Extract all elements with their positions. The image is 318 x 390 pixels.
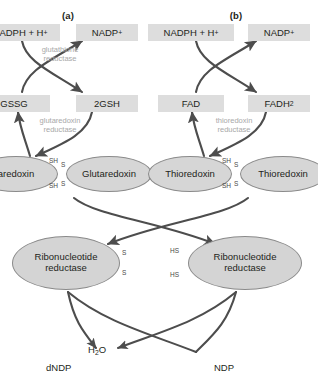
enzyme-label-thioredoxin-reductase: thioredoxin reductase	[186, 117, 282, 134]
thiol-hs-upper-rnr-right: HS	[170, 247, 179, 254]
nadp-charge-b: +	[290, 29, 294, 36]
rnr-line1-left: Ribonucleotide	[35, 251, 98, 262]
panel-label-b: (b)	[206, 10, 266, 21]
enzyme-label-glutaredoxin-reductase: glutaredoxin reductase	[12, 117, 108, 134]
label-water: H2O	[88, 344, 106, 356]
enzyme-line2: reductase	[44, 125, 77, 134]
disulfide-s-upper-a: S	[61, 161, 65, 168]
disulfide-s-lower-a: S	[61, 180, 65, 187]
thioredoxin-oxidized-label: Thioredoxin	[258, 169, 308, 180]
fad-label: FAD	[182, 98, 200, 109]
rnr-line2-right: reductase	[224, 262, 266, 273]
panel-label-a: (a)	[38, 10, 98, 21]
ellipse-thioredoxin-oxidized: Thioredoxin	[240, 156, 318, 192]
chem-box-2gsh: 2GSH	[76, 95, 138, 112]
chem-box-gssg: GSSG	[0, 95, 50, 112]
chem-box-nadp-b: NADP+	[248, 24, 310, 41]
ellipse-ribonucleotide-reductase-reduced: Ribonucleotide reductase	[188, 236, 302, 290]
thiol-hs-lower-rnr-right: HS	[170, 271, 179, 278]
ellipse-glutaredoxin-oxidized: Glutaredoxin	[66, 156, 152, 192]
enzyme-line2: reductase	[44, 54, 77, 63]
water-h: H	[88, 344, 95, 355]
nadph-label-a: NADPH + H	[0, 27, 43, 38]
chem-box-fadh2: FADH2	[248, 95, 310, 112]
thiol-sh-upper-a: SH	[49, 157, 58, 164]
fadh2-label: FADH	[264, 98, 289, 109]
label-ndp: NDP	[214, 362, 234, 373]
glutaredoxin-reduced-label: aredoxin	[0, 169, 34, 180]
gssg-label: GSSG	[0, 98, 27, 109]
fadh2-sub: 2	[290, 100, 294, 107]
thiol-sh-lower-a: SH	[49, 182, 58, 189]
ellipse-thioredoxin-reduced: Thioredoxin	[148, 156, 232, 192]
rnr-line1-right: Ribonucleotide	[214, 251, 277, 262]
enzyme-label-glutathione-reductase: glutathione reductase	[12, 46, 108, 63]
disulfide-s-lower-rnr-left: S	[122, 269, 126, 276]
nadp-label-b: NADP	[264, 27, 290, 38]
ellipse-ribonucleotide-reductase-oxidized: Ribonucleotide reductase	[12, 236, 120, 290]
disulfide-s-upper-b: S	[234, 161, 238, 168]
chem-box-nadph-a: NADPH + H+	[0, 24, 60, 41]
disulfide-s-lower-b: S	[234, 180, 238, 187]
rnr-line2-left: reductase	[45, 262, 87, 273]
thioredoxin-reduced-label: Thioredoxin	[165, 169, 215, 180]
chem-box-fad: FAD	[158, 95, 224, 112]
nadph-charge-a: +	[43, 29, 47, 36]
glutaredoxin-oxidized-label: Glutaredoxin	[82, 169, 136, 180]
nadph-label-b: NADPH + H	[164, 27, 215, 38]
nadph-charge-b: +	[214, 29, 218, 36]
nadp-label-a: NADP	[92, 27, 118, 38]
nadp-charge-a: +	[118, 29, 122, 36]
gsh-label: 2GSH	[94, 98, 120, 109]
disulfide-s-upper-rnr-left: S	[122, 249, 126, 256]
label-dndp: dNDP	[46, 362, 71, 373]
enzyme-line2: reductase	[218, 125, 251, 134]
chem-box-nadp-a: NADP+	[76, 24, 138, 41]
chem-box-nadph-b: NADPH + H+	[148, 24, 234, 41]
thiol-sh-lower-b: SH	[222, 182, 231, 189]
water-o: O	[99, 344, 106, 355]
thiol-sh-upper-b: SH	[222, 157, 231, 164]
